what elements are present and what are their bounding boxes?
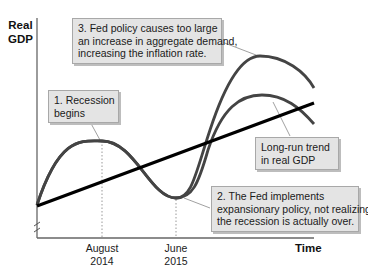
callout-line: increasing the inflation rate. bbox=[78, 47, 216, 60]
callout-fed-overshoot: 3. Fed policy causes too large an increa… bbox=[72, 18, 222, 64]
tick-label-year: 2015 bbox=[151, 255, 201, 268]
callout-line: in real GDP bbox=[261, 154, 333, 167]
callout-line: 2. The Fed implements bbox=[217, 190, 353, 203]
tick-jun-2015: June 2015 bbox=[151, 242, 201, 267]
callout-line: Long-run trend bbox=[261, 141, 333, 154]
leader-fed-implements bbox=[184, 198, 210, 208]
tick-aug-2014: August 2014 bbox=[77, 242, 127, 267]
callout-recession: 1. Recession begins bbox=[48, 90, 119, 123]
gdp-curve-overshoot bbox=[37, 56, 314, 205]
tick-label-month: August bbox=[77, 242, 127, 255]
callout-line: 1. Recession bbox=[54, 94, 113, 107]
tick-label-month: June bbox=[151, 242, 201, 255]
y-axis-label-line1: Real bbox=[8, 18, 33, 32]
callout-line: expansionary policy, not realizing bbox=[217, 203, 353, 216]
callout-line: 3. Fed policy causes too large bbox=[78, 22, 216, 35]
tick-label-year: 2014 bbox=[77, 255, 127, 268]
y-axis-label: Real GDP bbox=[8, 18, 33, 46]
x-axis-label: Time bbox=[295, 241, 322, 255]
callout-line: an increase in aggregate demand, bbox=[78, 35, 216, 48]
callout-line: the recession is actually over. bbox=[217, 215, 353, 228]
callout-line: begins bbox=[54, 107, 113, 120]
callout-trend: Long-run trend in real GDP bbox=[255, 137, 339, 170]
y-axis-label-line2: GDP bbox=[8, 32, 33, 46]
callout-fed-implements: 2. The Fed implements expansionary polic… bbox=[211, 186, 359, 232]
